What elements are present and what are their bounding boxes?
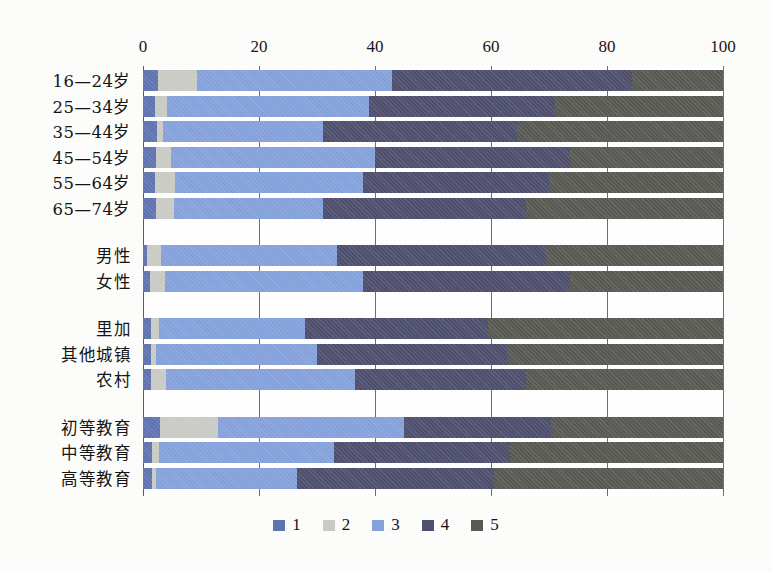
- gridline-100: [723, 66, 724, 496]
- legend-swatch-icon-4: [422, 520, 434, 531]
- bar-segment-4: [334, 442, 510, 463]
- x-tick-label-80: 80: [599, 36, 616, 58]
- bar-segment-1: [143, 369, 151, 390]
- bar-segment-1: [143, 147, 156, 168]
- legend-swatch-icon-3: [372, 520, 384, 531]
- x-tick-label-0: 0: [139, 36, 148, 58]
- y-category-label: 45—54岁: [53, 148, 132, 169]
- bar-segment-1: [143, 121, 157, 142]
- y-category-label: 65—74岁: [53, 199, 132, 220]
- bar-segment-3: [175, 172, 363, 193]
- bar-segment-3: [165, 271, 363, 292]
- y-category-label: 35—44岁: [53, 122, 132, 143]
- bar-segment-4: [317, 344, 507, 365]
- bar-segment-2: [160, 417, 219, 438]
- bar-segment-1: [143, 417, 160, 438]
- bar-segment-4: [375, 147, 570, 168]
- bar-segment-1: [143, 198, 156, 219]
- bar-segment-2: [151, 369, 166, 390]
- bar-segment-4: [404, 417, 551, 438]
- legend-item-1[interactable]: 1: [273, 516, 301, 534]
- bar-segment-2: [155, 96, 167, 117]
- bar-row: [143, 121, 723, 142]
- bar-segment-1: [143, 172, 155, 193]
- bar-segment-4: [305, 318, 488, 339]
- bar-row: [143, 245, 723, 266]
- bar-segment-4: [297, 468, 495, 489]
- bar-row: [143, 147, 723, 168]
- bar-segment-5: [551, 417, 723, 438]
- legend-label-4: 4: [441, 516, 450, 534]
- bar-row: [143, 271, 723, 292]
- bar-segment-5: [545, 245, 723, 266]
- y-category-label: 16—24岁: [53, 71, 132, 92]
- x-tick-label-100: 100: [710, 36, 736, 58]
- bar-segment-1: [143, 70, 158, 91]
- bar-segment-2: [156, 198, 174, 219]
- bar-row: [143, 172, 723, 193]
- bar-row: [143, 442, 723, 463]
- chart-legend: 12345: [0, 516, 772, 534]
- bar-segment-3: [218, 417, 404, 438]
- bar-segment-2: [155, 172, 176, 193]
- legend-item-4[interactable]: 4: [422, 516, 450, 534]
- bar-segment-5: [510, 442, 723, 463]
- y-category-label: 里加: [96, 319, 131, 340]
- legend-label-5: 5: [490, 516, 499, 534]
- bar-segment-4: [369, 96, 555, 117]
- bar-segment-1: [143, 271, 150, 292]
- x-tick-label-20: 20: [251, 36, 268, 58]
- bar-segment-4: [363, 172, 549, 193]
- bar-segment-5: [555, 96, 723, 117]
- legend-label-2: 2: [342, 516, 351, 534]
- legend-swatch-icon-5: [471, 520, 483, 531]
- bar-segment-4: [337, 245, 545, 266]
- bar-segment-3: [166, 369, 355, 390]
- legend-item-3[interactable]: 3: [372, 516, 400, 534]
- bar-segment-4: [392, 70, 632, 91]
- bar-row: [143, 96, 723, 117]
- legend-item-2[interactable]: 2: [323, 516, 351, 534]
- legend-swatch-icon-2: [323, 520, 335, 531]
- bar-segment-5: [507, 344, 723, 365]
- bar-segment-2: [150, 271, 165, 292]
- bar-segment-1: [143, 442, 152, 463]
- bar-segment-1: [143, 468, 152, 489]
- y-category-label: 农村: [96, 370, 131, 391]
- x-axis-tick-labels: 020406080100: [143, 36, 723, 62]
- bar-row: [143, 468, 723, 489]
- y-category-label: 中等教育: [61, 443, 131, 464]
- bar-row: [143, 344, 723, 365]
- legend-item-5[interactable]: 5: [471, 516, 499, 534]
- bar-segment-4: [363, 271, 569, 292]
- y-category-label: 55—64岁: [53, 173, 132, 194]
- bar-segment-5: [526, 198, 723, 219]
- y-category-label: 25—34岁: [53, 97, 132, 118]
- bar-segment-5: [526, 369, 723, 390]
- plot-area: [143, 66, 723, 496]
- bar-segment-3: [174, 198, 323, 219]
- y-axis-category-labels: 16—24岁25—34岁35—44岁45—54岁55—64岁65—74岁男性女性…: [0, 66, 137, 496]
- x-tick-label-40: 40: [367, 36, 384, 58]
- bar-segment-3: [156, 468, 296, 489]
- bar-segment-3: [171, 147, 375, 168]
- bar-segment-3: [156, 344, 317, 365]
- bar-row: [143, 70, 723, 91]
- bar-segment-5: [488, 318, 723, 339]
- bar-segment-2: [156, 147, 171, 168]
- bar-segment-3: [197, 70, 392, 91]
- y-category-label: 初等教育: [61, 418, 131, 439]
- legend-label-3: 3: [391, 516, 400, 534]
- y-category-label: 高等教育: [61, 469, 131, 490]
- legend-swatch-icon-1: [273, 520, 285, 531]
- bar-segment-5: [517, 121, 723, 142]
- bar-segment-1: [143, 318, 151, 339]
- bar-segment-1: [143, 344, 151, 365]
- bar-row: [143, 369, 723, 390]
- bar-segment-3: [163, 121, 324, 142]
- bar-segment-5: [632, 70, 723, 91]
- bar-segment-5: [494, 468, 723, 489]
- bar-segment-5: [549, 172, 723, 193]
- bar-segment-4: [355, 369, 526, 390]
- bar-segment-5: [570, 271, 723, 292]
